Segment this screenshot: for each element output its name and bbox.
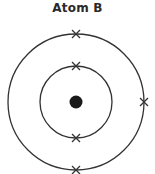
nucleus bbox=[70, 96, 83, 109]
electrons bbox=[72, 30, 148, 174]
atom-diagram bbox=[0, 0, 155, 174]
